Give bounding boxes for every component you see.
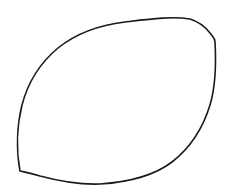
drawing-canvas [0, 0, 227, 195]
leaf-shape-outline [18, 18, 216, 184]
leaf-outline-drawing [0, 0, 227, 195]
